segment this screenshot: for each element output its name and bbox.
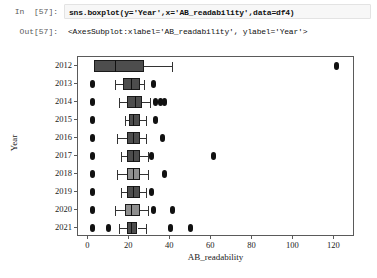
- y-tick-label-2018: 2018: [46, 168, 72, 178]
- whisker-low: [117, 174, 127, 175]
- notebook-output-cell: Out[57]: <AxesSubplot:xlabel='AB_readabi…: [0, 24, 377, 39]
- median-line: [131, 204, 132, 216]
- y-tick-label-2021: 2021: [46, 222, 72, 232]
- x-tick-label-80: 80: [236, 240, 266, 250]
- median-line: [133, 186, 134, 198]
- x-tick-label-40: 40: [154, 240, 184, 250]
- outlier-point: [334, 62, 339, 70]
- whisker-low: [115, 210, 125, 211]
- x-tick-label-20: 20: [113, 240, 143, 250]
- box-2021: [127, 222, 137, 234]
- y-tick-mark: [74, 155, 77, 156]
- cap-high: [146, 116, 147, 126]
- x-tick-mark: [251, 236, 252, 239]
- y-tick-label-2016: 2016: [46, 132, 72, 142]
- y-tick-label-2017: 2017: [46, 150, 72, 160]
- outlier-point: [90, 80, 95, 88]
- y-tick-label-2014: 2014: [46, 96, 72, 106]
- x-tick-label-120: 120: [318, 240, 348, 250]
- cap-high: [146, 188, 147, 198]
- y-tick-mark: [74, 209, 77, 210]
- outlier-point: [90, 206, 95, 214]
- x-axis-label: AB_readability: [77, 252, 354, 262]
- notebook-input-cell[interactable]: In [57]: sns.boxplot(y='Year',x='AB_read…: [0, 4, 377, 19]
- outlier-point: [162, 98, 167, 106]
- y-tick-label-2012: 2012: [46, 60, 72, 70]
- outlier-point: [151, 206, 156, 214]
- whisker-high: [140, 156, 148, 157]
- outlier-point: [90, 224, 95, 232]
- box-row-2014: [78, 93, 353, 111]
- median-line: [135, 96, 136, 108]
- box-2020: [125, 204, 139, 216]
- x-tick-mark: [333, 236, 334, 239]
- outlier-point: [90, 116, 95, 124]
- whisker-high: [140, 210, 148, 211]
- whisker-low: [115, 84, 123, 85]
- y-tick-label-2015: 2015: [46, 114, 72, 124]
- outlier-point: [149, 152, 154, 160]
- y-tick-label-2013: 2013: [46, 78, 72, 88]
- outlier-point: [90, 152, 95, 160]
- outlier-point: [170, 206, 175, 214]
- code-text: sns.boxplot(y='Year',x='AB_readability',…: [69, 7, 366, 18]
- cap-low: [115, 206, 116, 216]
- box-row-2013: [78, 75, 353, 93]
- cap-high: [148, 206, 149, 216]
- output-area: <AxesSubplot:xlabel='AB_readability', yl…: [64, 24, 371, 39]
- outlier-point: [149, 188, 154, 196]
- code-editor[interactable]: sns.boxplot(y='Year',x='AB_readability',…: [64, 4, 371, 19]
- x-tick-label-100: 100: [277, 240, 307, 250]
- median-line: [131, 222, 132, 234]
- y-axis-label: Year: [9, 113, 19, 173]
- outlier-point: [90, 98, 95, 106]
- box-row-2012: [78, 57, 353, 75]
- box-row-2015: [78, 111, 353, 129]
- outlier-point: [90, 134, 95, 142]
- box-row-2017: [78, 147, 353, 165]
- cap-low: [121, 152, 122, 162]
- y-tick-mark: [74, 119, 77, 120]
- y-tick-mark: [74, 227, 77, 228]
- box-row-2021: [78, 219, 353, 237]
- box-row-2019: [78, 183, 353, 201]
- outlier-point: [90, 188, 95, 196]
- cap-low: [125, 116, 126, 126]
- x-tick-mark: [169, 236, 170, 239]
- x-tick-mark: [128, 236, 129, 239]
- cap-high: [148, 170, 149, 180]
- x-tick-label-60: 60: [195, 240, 225, 250]
- whisker-low: [119, 228, 127, 229]
- box-2015: [129, 114, 139, 126]
- whisker-high: [142, 102, 150, 103]
- cap-low: [117, 134, 118, 144]
- y-tick-mark: [74, 65, 77, 66]
- outlier-point: [153, 116, 158, 124]
- y-tick-mark: [74, 137, 77, 138]
- output-text: <AxesSubplot:xlabel='AB_readability', yl…: [68, 26, 367, 37]
- outlier-point: [151, 80, 156, 88]
- median-line: [133, 168, 134, 180]
- y-tick-mark: [74, 173, 77, 174]
- whisker-high: [138, 228, 146, 229]
- cap-low: [119, 98, 120, 108]
- y-tick-mark: [74, 83, 77, 84]
- x-tick-label-0: 0: [72, 240, 102, 250]
- box-row-2020: [78, 201, 353, 219]
- median-line: [133, 114, 134, 126]
- outlier-point: [160, 134, 165, 142]
- median-line: [131, 78, 132, 90]
- outlier-point: [162, 170, 167, 178]
- median-line: [133, 132, 134, 144]
- median-line: [133, 150, 134, 162]
- y-tick-mark: [74, 101, 77, 102]
- y-tick-label-2019: 2019: [46, 186, 72, 196]
- cap-high: [150, 98, 151, 108]
- whisker-high: [140, 174, 148, 175]
- whisker-low: [117, 138, 127, 139]
- box-2012: [94, 60, 143, 72]
- x-tick-mark: [87, 236, 88, 239]
- y-tick-label-2020: 2020: [46, 204, 72, 214]
- cap-low: [121, 188, 122, 198]
- cap-high: [146, 224, 147, 234]
